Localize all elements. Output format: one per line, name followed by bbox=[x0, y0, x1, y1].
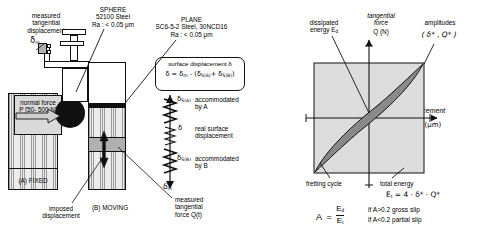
hysteresis-vector-layer bbox=[0, 0, 478, 234]
figure-root: measured tangential displacement δm SPHE… bbox=[0, 0, 478, 234]
amplitudes-leader bbox=[424, 44, 434, 64]
